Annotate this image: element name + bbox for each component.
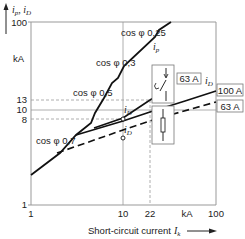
y-unit: kA [13,53,25,64]
label-cos-03: cos φ 0,3 [96,57,135,68]
x-axis-symbol: Ik [173,225,181,238]
x-tick-100: 100 [208,208,224,219]
x-axis-arrow [187,229,217,234]
label-cos-05: cos φ 0,5 [73,87,112,98]
fuse-symbol [152,106,174,144]
label-cos-07: cos φ 0,7 [36,135,75,146]
tag-63a: 63 A [217,100,243,112]
y-tick-100: 100 [11,17,27,28]
label-ip: ip [153,41,160,54]
y-axis-arrow [4,3,9,34]
breaker-rating-badge: 63 A [177,73,201,84]
svg-text:100 A: 100 A [218,85,243,96]
svg-text:63 A: 63 A [179,73,199,84]
y-tick-1: 1 [22,199,27,210]
chart: ip, iD 100 kA 13 10 8 1 1 10 22 kA 100 S… [0,0,245,239]
marker-id-100a [121,117,125,121]
x-tick-1: 1 [28,208,33,219]
y-tick-8: 8 [22,114,27,125]
label-id-right: iD [205,75,213,88]
marker-id-63a [121,136,125,140]
x-tick-22: 22 [145,208,156,219]
label-id-lower: iD [124,124,132,137]
circuit-breaker-symbol [152,65,174,103]
plot-frame [28,22,216,205]
x-tick-10: 10 [118,208,129,219]
svg-text:63 A: 63 A [220,101,240,112]
y-axis-title: ip, iD [12,4,31,17]
label-id-upper: iD [124,104,132,117]
x-axis-title: Short-circuit current [88,225,171,236]
label-cos-025: cos φ 0,25 [121,27,166,38]
x-unit: kA [181,208,193,219]
tag-100a: 100 A [217,84,243,96]
